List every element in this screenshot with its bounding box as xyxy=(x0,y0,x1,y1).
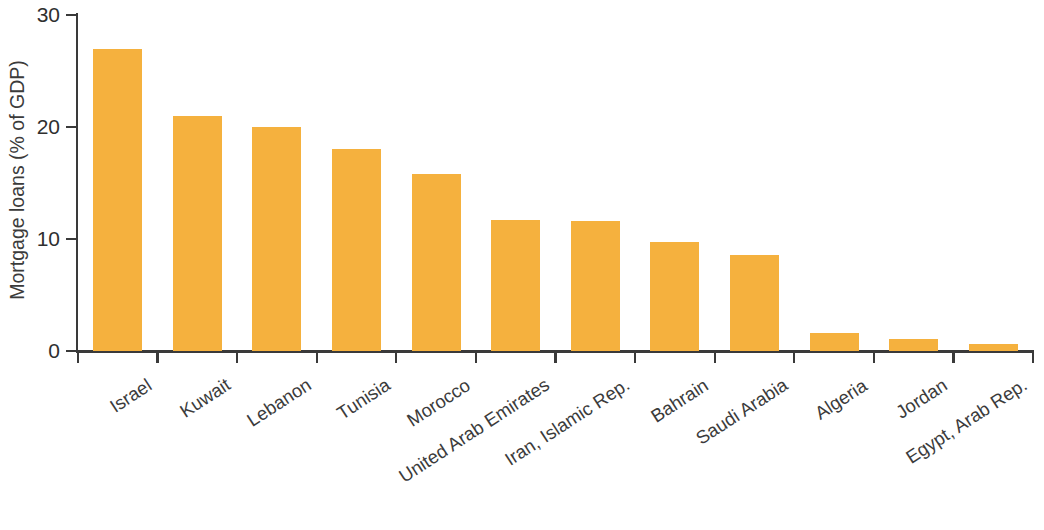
x-axis-label: Lebanon xyxy=(243,374,315,432)
x-axis-label: Israel xyxy=(106,374,156,417)
bar-chart: Mortgage loans (% of GDP) 0102030 Israel… xyxy=(0,0,1044,530)
x-axis-label: Tunisia xyxy=(333,374,394,425)
x-axis-labels: IsraelKuwaitLebanonTunisiaMoroccoUnited … xyxy=(0,0,1044,530)
x-axis-label: Algeria xyxy=(811,374,871,424)
x-axis-label: Kuwait xyxy=(176,374,235,423)
x-axis-label: United Arab Emirates xyxy=(395,374,554,488)
x-axis-label: Bahrain xyxy=(647,374,712,427)
x-axis-label: Jordan xyxy=(892,374,951,423)
x-axis-label: Morocco xyxy=(403,374,474,431)
